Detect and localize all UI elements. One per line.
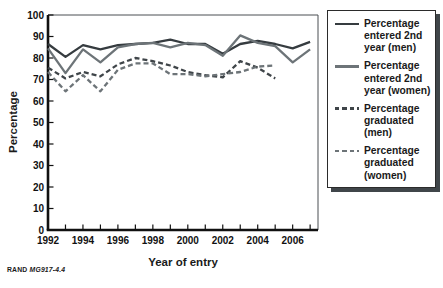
figure: 0102030405060708090100199219941996199820… — [0, 0, 443, 288]
series-line-solid — [48, 40, 310, 57]
x-tick-label: 1996 — [107, 235, 130, 246]
source-brand: RAND — [7, 266, 27, 273]
y-tick-label: 30 — [33, 160, 45, 171]
x-tick-label: 1992 — [37, 235, 60, 246]
legend-item: Percentage graduated (men) — [335, 103, 431, 139]
y-tick-label: 70 — [33, 74, 45, 85]
legend-line-swatch-solid — [335, 65, 359, 68]
x-tick-label: 2004 — [247, 235, 270, 246]
y-axis-title: Percentage — [7, 91, 19, 153]
x-axis-title: Year of entry — [148, 256, 218, 268]
y-tick-label: 20 — [33, 182, 45, 193]
x-tick-label: 2002 — [212, 235, 235, 246]
x-tick-label: 1994 — [72, 235, 95, 246]
legend-item-label: Percentage entered 2nd year (men) — [364, 18, 431, 54]
y-tick-label: 100 — [27, 10, 44, 21]
legend-item: Percentage entered 2nd year (women) — [335, 60, 431, 96]
legend-line-swatch-solid — [335, 23, 359, 26]
source-doc-id: MG917-4.4 — [30, 266, 66, 273]
series-line-dashed — [48, 63, 275, 91]
y-tick-label: 40 — [33, 139, 45, 150]
legend-item-label: Percentage entered 2nd year (women) — [364, 60, 431, 96]
x-tick-label: 2006 — [282, 235, 305, 246]
legend-item: Percentage graduated (women) — [335, 145, 431, 181]
y-tick-label: 0 — [38, 225, 44, 236]
y-tick-label: 50 — [33, 117, 45, 128]
legend-item-label: Percentage graduated (men) — [364, 103, 431, 139]
y-tick-label: 60 — [33, 96, 45, 107]
legend-line-swatch-dashed — [335, 107, 359, 110]
x-tick-label: 1998 — [142, 235, 165, 246]
legend-line-swatch-dashed — [335, 150, 359, 153]
source-note: RAND MG917-4.4 — [7, 266, 65, 273]
y-tick-label: 10 — [33, 203, 45, 214]
legend: Percentage entered 2nd year (men)Percent… — [327, 10, 436, 188]
legend-item-label: Percentage graduated (women) — [364, 145, 431, 181]
y-tick-label: 80 — [33, 53, 45, 64]
legend-item: Percentage entered 2nd year (men) — [335, 18, 431, 54]
x-tick-label: 2000 — [177, 235, 200, 246]
y-tick-label: 90 — [33, 31, 45, 42]
